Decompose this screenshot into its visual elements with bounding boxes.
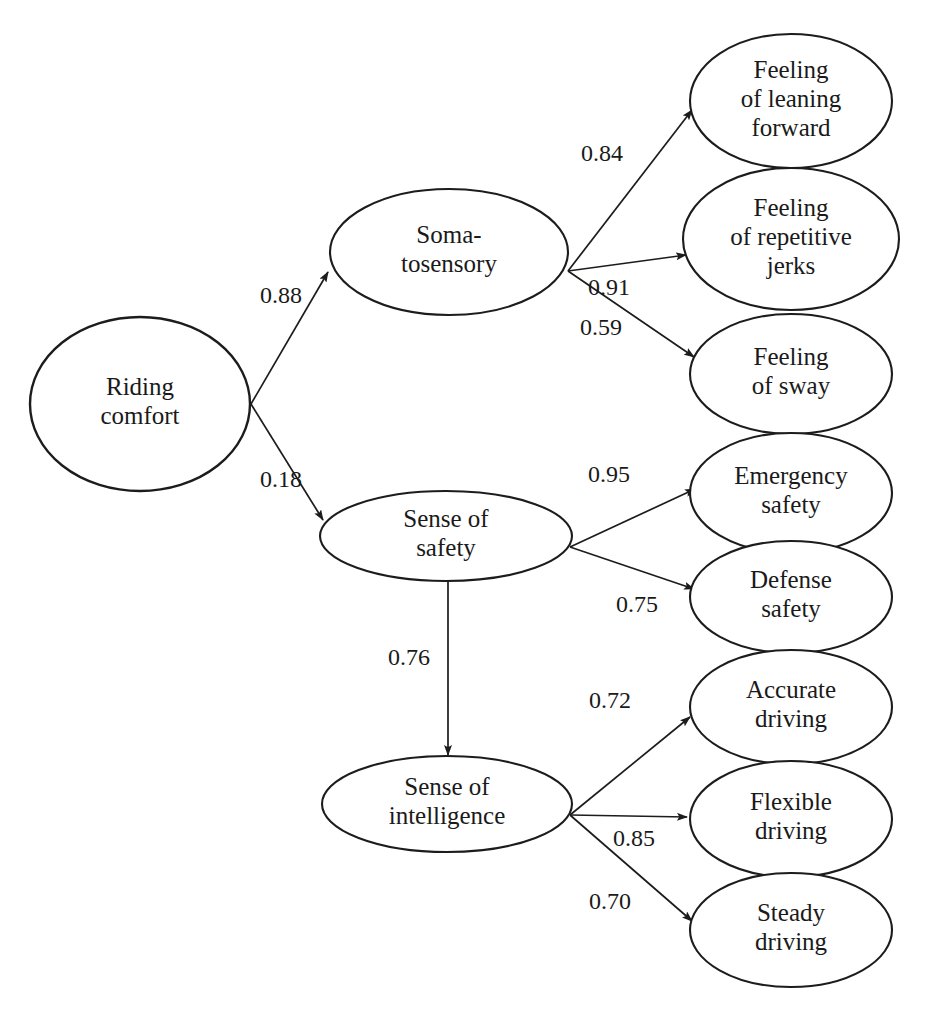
node-sense_of_intelligence: Sense ofintelligence xyxy=(322,756,572,852)
node-accurate_driving: Accuratedriving xyxy=(690,650,892,764)
node-ellipse-emergency_safety xyxy=(690,433,892,553)
edge-arrow-soma_to_jerks xyxy=(568,255,686,271)
edge-soma_to_leaning xyxy=(568,110,692,271)
node-steady_driving: Steadydriving xyxy=(690,873,892,987)
node-sense_of_safety: Sense ofsafety xyxy=(320,491,572,581)
node-feeling_of_sway: Feelingof sway xyxy=(690,314,892,434)
edge-coefficient-intel_to_steady: 0.70 xyxy=(589,888,631,914)
edge-arrow-safety_to_emergency xyxy=(570,489,695,547)
edge-coefficient-intel_to_accurate: 0.72 xyxy=(589,687,631,713)
edge-coefficient-rc_to_safety: 0.18 xyxy=(260,466,302,492)
node-ellipse-riding_comfort xyxy=(30,317,250,491)
edge-coefficient-rc_to_soma: 0.88 xyxy=(260,282,302,308)
edge-arrow-safety_to_defense xyxy=(570,547,694,589)
edge-coefficient-safety_to_intelligence: 0.76 xyxy=(388,644,430,670)
edge-coefficient-soma_to_jerks: 0.91 xyxy=(588,274,630,300)
edge-arrow-intel_to_flexible xyxy=(570,815,687,817)
edge-intel_to_flexible xyxy=(570,815,687,817)
node-riding_comfort: Ridingcomfort xyxy=(30,317,250,491)
edge-arrow-soma_to_leaning xyxy=(568,110,692,271)
node-ellipse-defense_safety xyxy=(690,541,892,653)
edge-coefficient-soma_to_sway: 0.59 xyxy=(580,314,622,340)
node-defense_safety: Defensesafety xyxy=(690,541,892,653)
node-ellipse-feeling_leaning_forward xyxy=(690,34,892,168)
node-ellipse-feeling_repetitive_jerks xyxy=(683,168,899,310)
node-ellipse-flexible_driving xyxy=(690,761,892,877)
node-ellipse-feeling_of_sway xyxy=(690,314,892,434)
edge-rc_to_safety xyxy=(251,404,323,520)
edge-arrow-intel_to_accurate xyxy=(570,717,690,815)
edge-safety_to_defense xyxy=(570,547,694,589)
node-feeling_leaning_forward: Feelingof leaningforward xyxy=(690,34,892,168)
edge-coefficient-intel_to_flexible: 0.85 xyxy=(613,825,655,851)
edge-soma_to_jerks xyxy=(568,255,686,271)
edge-arrow-rc_to_safety xyxy=(251,404,323,520)
node-ellipse-accurate_driving xyxy=(690,650,892,764)
edge-safety_to_emergency xyxy=(570,489,695,547)
node-ellipse-sense_of_safety xyxy=(320,491,572,581)
node-feeling_repetitive_jerks: Feelingof repetitivejerks xyxy=(683,168,899,310)
node-ellipse-sense_of_intelligence xyxy=(322,756,572,852)
node-emergency_safety: Emergencysafety xyxy=(690,433,892,553)
node-somatosensory: Soma-tosensory xyxy=(330,189,568,315)
path-diagram-canvas: RidingcomfortSoma-tosensorySense ofsafet… xyxy=(0,0,936,1021)
nodes-layer: RidingcomfortSoma-tosensorySense ofsafet… xyxy=(30,34,899,987)
edge-intel_to_accurate xyxy=(570,717,690,815)
node-ellipse-somatosensory xyxy=(330,189,568,315)
edge-coefficient-soma_to_leaning: 0.84 xyxy=(581,140,623,166)
sem-path-diagram: RidingcomfortSoma-tosensorySense ofsafet… xyxy=(0,0,936,1021)
edge-coefficient-safety_to_emergency: 0.95 xyxy=(588,461,630,487)
node-flexible_driving: Flexibledriving xyxy=(690,761,892,877)
node-ellipse-steady_driving xyxy=(690,873,892,987)
edge-coefficient-safety_to_defense: 0.75 xyxy=(616,591,658,617)
